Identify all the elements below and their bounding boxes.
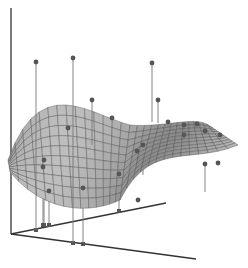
surface-patch [189,122,195,125]
surface-patch [58,115,68,125]
surface-patch [49,115,59,126]
surface-patch [181,152,190,156]
surface-patch [95,169,103,179]
surface-patch [118,154,126,162]
surface-patch [95,140,104,151]
surface-patch [71,177,80,188]
surface-patch [86,148,95,159]
data-point-marker [47,189,52,194]
surface-patch [77,137,86,149]
data-point-marker [66,126,71,131]
surface-patch [111,153,119,162]
surface-patch [96,197,103,207]
surface-patch [103,179,110,188]
surface-patch [96,188,103,198]
surface-patch [198,150,208,154]
surface-patch [63,196,72,208]
surface-patch [103,152,111,162]
drop-line-foot [47,223,51,227]
surface-patch [61,166,71,177]
data-point-marker [166,120,171,125]
surface-patch [42,146,52,156]
surface-patch [103,143,111,154]
surface-patch [119,146,127,155]
y-axis-line [11,234,196,259]
surface-patch [189,128,195,132]
surface-patch [88,188,96,198]
data-point-marker [182,123,187,128]
data-point-marker [203,162,208,167]
surface-patch [87,158,96,169]
surface-patch [111,145,119,155]
data-point-marker [42,158,47,163]
surface-patch [66,105,76,116]
surface-mesh [8,105,238,208]
data-point-marker [216,161,221,166]
surface-patch [70,167,79,178]
surface-patch [110,194,116,204]
surface-patch [59,136,69,146]
surface-patch [110,178,117,187]
drop-line-foot [41,223,45,227]
surface-patch [80,198,89,208]
data-point-marker [135,149,140,154]
surface-patch [103,187,110,197]
surface-patch [86,138,95,150]
data-point-marker [136,198,141,203]
surface-patch [62,176,71,187]
surface-patch [96,179,104,189]
surface-patch [87,168,96,178]
surface-patch [111,162,119,171]
surface-patch [51,156,61,166]
data-point-marker [150,61,155,66]
surface-patch [189,125,195,129]
data-point-marker [34,60,39,65]
surface-patch [190,151,199,155]
surface-patch [79,167,88,178]
surface-patch [95,150,103,161]
surface-patch [95,160,103,170]
data-point-marker [41,165,46,170]
surface-patch [52,165,62,176]
surface-patch [103,196,110,206]
surface-patch [119,138,128,147]
surface-patch [103,170,110,179]
surface-patch [50,136,60,146]
surface-patch [60,146,70,157]
surface-patch [57,105,67,115]
surface-patch [41,136,51,147]
surface-patch [69,156,78,167]
surface-patch [48,105,58,117]
surface-plot [0,0,248,268]
surface-patch [78,157,87,168]
data-point-marker [195,122,200,127]
surface-patch [60,156,70,167]
surface-patch [67,115,77,126]
surface-patch [103,161,111,170]
surface-patch [78,147,87,158]
data-point-marker [90,98,95,103]
data-point-marker [141,143,146,148]
surface-patch [88,178,96,188]
surface-patch [110,170,117,179]
data-point-marker [110,116,115,121]
data-point-marker [71,56,76,61]
data-point-marker [182,133,187,138]
data-point-marker [218,133,223,138]
surface-patch [62,186,71,197]
surface-patch [88,198,96,208]
drop-line-foot [81,242,85,246]
drop-line-foot [117,209,121,213]
surface-patch [76,127,85,139]
surface-patch [49,125,59,136]
data-point-marker [117,172,122,177]
data-point-marker [203,129,208,134]
plot-canvas [0,0,248,268]
surface-patch [53,175,63,186]
data-point-marker [81,186,86,191]
surface-patch [51,146,61,156]
data-point-marker [156,98,161,103]
surface-patch [54,194,64,206]
